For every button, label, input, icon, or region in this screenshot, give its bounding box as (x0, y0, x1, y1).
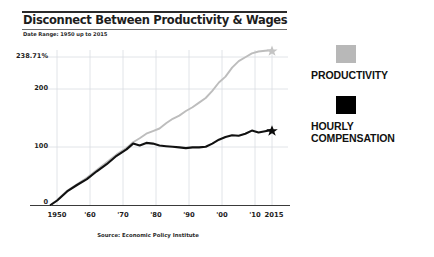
plot-area: 238.71% 200 100 0 1950 '60 '70 '80 '90 '… (0, 0, 296, 257)
x-axis-tick-1950: 1950 (42, 211, 72, 219)
legend-label-productivity: PRODUCTIVITY (311, 69, 431, 81)
y-axis-tick-238: 238.71% (16, 52, 48, 60)
y-axis-tick-100: 100 (16, 142, 48, 150)
productivity-swatch (336, 45, 356, 63)
x-axis-tick-70: '70 (109, 211, 137, 219)
hourly-compensation-line (51, 130, 272, 205)
x-axis-tick-2015: 2015 (259, 211, 289, 219)
y-axis-tick-200: 200 (16, 84, 48, 92)
legend-label-hourly-line1: HOURLY (311, 120, 354, 132)
source-caption: Source: Economic Policy Institute (0, 232, 296, 238)
chart-card: Disconnect Between Productivity & Wages … (0, 0, 296, 257)
legend-panel: PRODUCTIVITY HOURLY COMPENSATION NOTE: P… (296, 0, 434, 257)
chart-screenshot: Disconnect Between Productivity & Wages … (0, 0, 434, 257)
x-axis-tick-00: '00 (208, 211, 236, 219)
legend-label-hourly: HOURLY COMPENSATION (311, 120, 434, 144)
y-axis-tick-0: 0 (16, 198, 48, 206)
x-axis-tick-80: '80 (142, 211, 170, 219)
legend-label-hourly-line2: COMPENSATION (311, 132, 395, 144)
x-axis-tick-60: '60 (76, 211, 104, 219)
x-axis-tick-90: '90 (175, 211, 203, 219)
hourly-compensation-swatch (336, 96, 356, 114)
